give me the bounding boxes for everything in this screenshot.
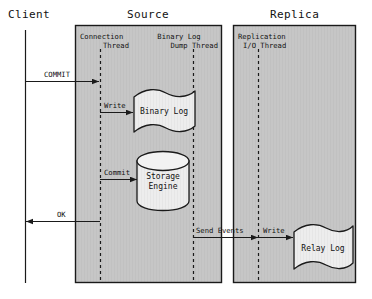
thread-label-binary-log-dump-thread-line2: Dump Thread — [140, 41, 218, 50]
node-label-binary-log: Binary Log — [133, 107, 195, 117]
thread-label-binary-log-dump-thread: Binary Log Dump Thread — [140, 32, 218, 50]
thread-label-binary-log-dump-thread-line1: Binary Log — [140, 32, 218, 41]
arrow-label-commit: COMMIT — [44, 70, 70, 79]
lane-title-replica: Replica — [270, 8, 319, 21]
node-label-storage-engine: Storage Engine — [137, 172, 189, 192]
lane-title-source: Source — [127, 8, 169, 21]
storage-engine-top-ellipse — [137, 152, 189, 171]
node-label-storage-engine-line2: Engine — [137, 182, 189, 192]
arrow-label-write-binlog: Write — [104, 101, 126, 110]
replication-diagram: Client Source Replica Connection Thread … — [0, 0, 372, 299]
arrow-label-send-events: Send Events — [196, 226, 244, 235]
thread-label-replication-io-thread: Replication I/O Thread — [238, 32, 316, 50]
arrow-label-ok: OK — [57, 210, 66, 219]
thread-label-replication-io-thread-line1: Replication — [238, 32, 316, 41]
node-label-storage-engine-line1: Storage — [137, 172, 189, 182]
node-label-relay-log: Relay Log — [293, 244, 353, 254]
arrow-label-commit-storage-engine: Commit — [104, 168, 130, 177]
arrow-label-write-relay: Write — [263, 226, 285, 235]
lane-title-client: Client — [8, 8, 50, 21]
thread-label-replication-io-thread-line2: I/O Thread — [238, 41, 316, 50]
